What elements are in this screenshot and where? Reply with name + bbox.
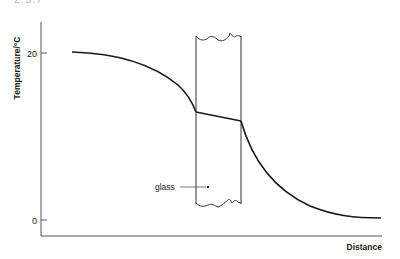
y-axis-label: Temperature/°C bbox=[12, 37, 22, 100]
x-axis-label: Distance bbox=[347, 242, 383, 252]
top-break-line bbox=[196, 33, 241, 41]
y-tick-label-20: 20 bbox=[27, 49, 37, 59]
curve-warm-side bbox=[72, 52, 196, 112]
curve-cold-side bbox=[241, 121, 381, 218]
diagram-canvas: 20 0 Temperature/°C Distance glass bbox=[0, 0, 400, 259]
curve-through-glass bbox=[196, 112, 241, 121]
y-tick-label-0: 0 bbox=[32, 216, 37, 226]
bottom-break-line bbox=[196, 199, 241, 207]
temperature-profile-figure: 2.5.7 20 0 Temperature/°C Distance glass bbox=[0, 0, 400, 259]
glass-leader-dot bbox=[207, 186, 209, 188]
glass-label: glass bbox=[155, 182, 175, 192]
